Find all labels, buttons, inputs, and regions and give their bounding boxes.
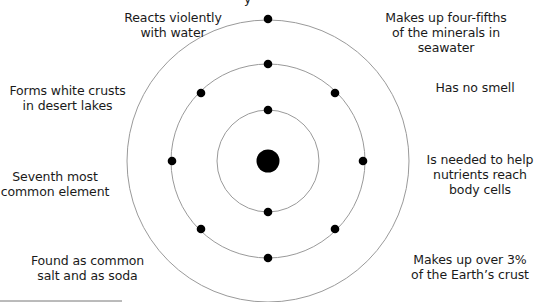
label-seventh-common: Seventh most common element — [0, 169, 110, 199]
electron-middle-left — [168, 157, 177, 166]
label-line: body cells — [424, 182, 536, 197]
label-no-smell: Has no smell — [420, 80, 530, 95]
electron-middle-top — [264, 60, 273, 69]
label-line: in desert lakes — [0, 98, 135, 113]
electron-middle-bottom — [264, 254, 273, 263]
label-reacts-violently: Reacts violently with water — [78, 10, 268, 40]
label-line: of the minerals in — [361, 25, 531, 40]
electron-middle-bottomright — [331, 225, 340, 234]
top-partial-text: y — [244, 0, 251, 6]
electron-middle-right — [359, 157, 368, 166]
electron-middle-bottomleft — [197, 225, 206, 234]
label-line: salt and as soda — [25, 268, 150, 283]
label-line: common element — [0, 184, 110, 199]
nucleus — [257, 150, 280, 173]
label-line: Makes up four-fifths — [361, 10, 531, 25]
label-four-fifths-seawater: Makes up four-fifths of the minerals in … — [361, 10, 531, 55]
label-line: of the Earth’s crust — [400, 267, 538, 282]
electron-middle-topleft — [197, 89, 206, 98]
label-line: seawater — [361, 40, 531, 55]
electron-inner-bottom — [264, 208, 273, 217]
label-white-crusts: Forms white crusts in desert lakes — [0, 83, 135, 113]
label-line: nutrients reach — [424, 167, 536, 182]
label-line: Forms white crusts — [0, 83, 135, 98]
label-line: Makes up over 3% — [400, 252, 538, 267]
electron-middle-topright — [331, 89, 340, 98]
label-line: Found as common — [25, 253, 150, 268]
label-common-salt: Found as common salt and as soda — [25, 253, 150, 283]
label-earth-crust: Makes up over 3% of the Earth’s crust — [400, 252, 538, 282]
label-line: Seventh most — [0, 169, 110, 184]
label-line: with water — [78, 25, 268, 40]
label-line: Reacts violently — [78, 10, 268, 25]
label-line: Has no smell — [420, 80, 530, 95]
label-line: Is needed to help — [424, 152, 536, 167]
electron-inner-top — [264, 106, 273, 115]
label-nutrients: Is needed to help nutrients reach body c… — [424, 152, 536, 197]
